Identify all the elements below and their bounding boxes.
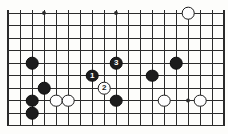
white-stone-left-corner-b[interactable] <box>62 94 75 107</box>
white-stone-left-corner-a[interactable] <box>50 94 63 107</box>
black-stone-bottom-left[interactable] <box>26 107 39 120</box>
star-point <box>42 11 46 15</box>
white-stone-right-low-a[interactable] <box>158 94 171 107</box>
star-point <box>186 99 190 103</box>
black-stone-right-upper[interactable] <box>170 57 183 70</box>
black-stone-left-hane[interactable] <box>38 82 51 95</box>
stone-move-number: 3 <box>114 59 118 67</box>
stone-move-number: 1 <box>90 71 94 79</box>
black-stone-left-upper[interactable] <box>26 57 39 70</box>
go-board-diagram: 312 <box>0 0 228 134</box>
stone-move-number: 2 <box>102 84 106 92</box>
star-point <box>114 11 118 15</box>
black-stone-move-1[interactable]: 1 <box>86 69 99 82</box>
black-stone-center-low[interactable] <box>110 94 123 107</box>
black-stone-right-mid[interactable] <box>146 69 159 82</box>
black-stone-left-corner[interactable] <box>26 94 39 107</box>
white-stone-move-2[interactable]: 2 <box>98 82 111 95</box>
white-stone-top-right[interactable] <box>182 7 195 20</box>
black-stone-move-3[interactable]: 3 <box>110 57 123 70</box>
white-stone-right-low-b[interactable] <box>194 94 207 107</box>
